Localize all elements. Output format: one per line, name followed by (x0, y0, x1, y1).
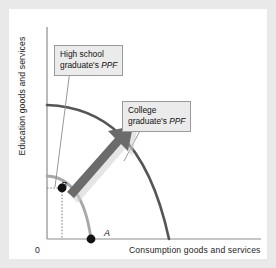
callout-high-school-ppf: High schoolgraduate's PPF (54, 45, 123, 76)
callout-college-ppf-abbr: PPF (169, 116, 185, 126)
y-axis-label: Education goods and services (17, 26, 27, 166)
ppf-plot (9, 9, 267, 259)
point-a-marker (87, 235, 96, 244)
point-a-label: A (104, 228, 110, 238)
origin-label: 0 (35, 245, 40, 255)
figure-container: Education goods and services Consumption… (0, 0, 276, 268)
shift-arrow (67, 126, 133, 198)
callout-high-school-line1: High school (60, 49, 104, 59)
x-axis-label: Consumption goods and services (129, 245, 261, 255)
callout-high-school-line2: graduate's (60, 60, 101, 70)
callout-college-ppf: Collegegraduate's PPF (122, 101, 191, 132)
callout-college-line1: College (128, 105, 156, 115)
high-school-leader-line (55, 70, 70, 187)
callout-high-school-ppf-abbr: PPF (101, 60, 117, 70)
point-b-label: B (61, 180, 67, 190)
callout-college-line2: graduate's (128, 116, 169, 126)
chart-panel: Education goods and services Consumption… (9, 9, 267, 259)
